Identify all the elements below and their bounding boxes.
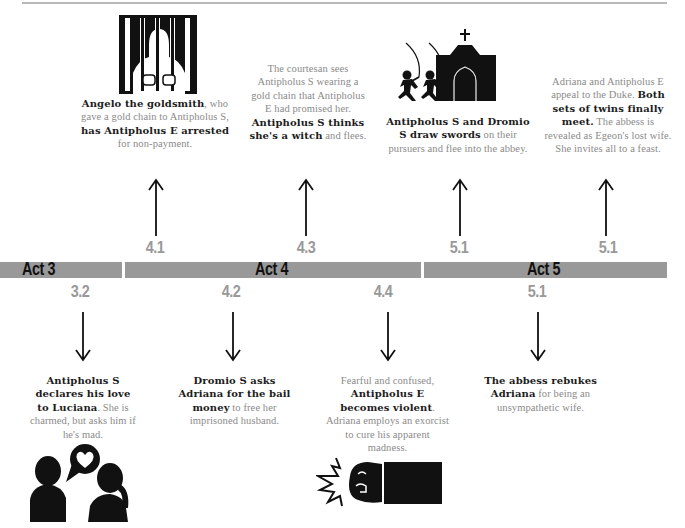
event-4-1-description: Angelo the goldsmith, who gave a gold ch… bbox=[80, 97, 230, 151]
couple-heart-speech-icon bbox=[26, 442, 138, 522]
prisoner-behind-bars-icon bbox=[119, 15, 197, 94]
act-3-label: Act 3 bbox=[22, 259, 55, 279]
up-arrow-icon bbox=[298, 178, 314, 236]
punching-fist-icon bbox=[316, 456, 444, 508]
event-3-2-description: Antipholus S declares his love to Lucian… bbox=[28, 374, 138, 441]
scene-label-4-3: 4.3 bbox=[297, 238, 316, 258]
event-4-2-description: Dromio S asks Adriana for the bail money… bbox=[172, 374, 297, 428]
up-arrow-icon bbox=[598, 178, 614, 236]
act-3-bar bbox=[0, 262, 122, 278]
swordsmen-and-abbey-icon bbox=[398, 15, 518, 101]
down-arrow-icon bbox=[75, 312, 91, 362]
scene-label-4-4: 4.4 bbox=[374, 282, 393, 302]
event-4-3-description: The courtesan sees Antipholus S wearing … bbox=[248, 62, 368, 142]
event-5-1-reunion-description: Adriana and Antipholus E appeal to the D… bbox=[543, 75, 673, 155]
up-arrow-icon bbox=[452, 178, 468, 236]
scene-label-5-1: 5.1 bbox=[450, 238, 469, 258]
up-arrow-icon bbox=[148, 178, 164, 236]
down-arrow-icon bbox=[225, 312, 241, 362]
scene-label-4-1: 4.1 bbox=[146, 238, 165, 258]
act-4-label: Act 4 bbox=[255, 259, 288, 279]
top-divider bbox=[22, 2, 667, 4]
down-arrow-icon bbox=[380, 312, 396, 362]
scene-label-5-1: 5.1 bbox=[528, 282, 547, 302]
act-5-label: Act 5 bbox=[527, 259, 560, 279]
scene-label-4-2: 4.2 bbox=[222, 282, 241, 302]
event-4-4-description: Fearful and confused, Antipholus E becom… bbox=[325, 374, 450, 454]
down-arrow-icon bbox=[530, 312, 546, 362]
event-5-1-swords-description: Antipholus S and Dromio S draw swords on… bbox=[383, 115, 533, 155]
event-5-1-rebuke-description: The abbess rebukes Adriana for being an … bbox=[478, 374, 603, 414]
scene-label-3-2: 3.2 bbox=[71, 282, 90, 302]
scene-label-5-1: 5.1 bbox=[599, 238, 618, 258]
